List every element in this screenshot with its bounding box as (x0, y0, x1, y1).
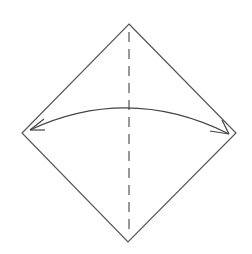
diagram-svg (0, 0, 252, 254)
origami-diagram (0, 0, 252, 254)
